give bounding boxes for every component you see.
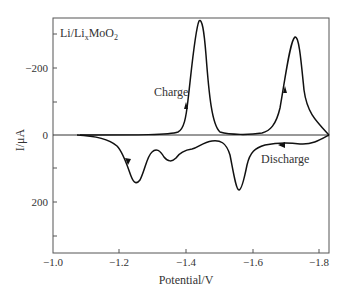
charge-label: Charge [154,85,188,99]
y-tick-label: 0 [43,129,49,141]
x-axis-title: Potential/V [159,273,214,287]
x-tick-label: −1.4 [176,256,196,268]
cv-chart: −200 0 200 −1.0 −1.2 −1.4 −1.6 −1.8 Pote… [0,0,348,292]
x-tick-label: −1.2 [109,256,129,268]
inset-label: Li/LixMoO2 [60,26,118,42]
discharge-label: Discharge [261,152,309,166]
x-tick-label: −1.8 [309,256,329,268]
x-tick-label: −1.0 [43,256,63,268]
x-axis-ticks [119,249,319,253]
y-axis-title: I/μA [13,128,27,151]
x-tick-label: −1.6 [243,256,263,268]
y-tick-label: 200 [32,196,49,208]
y-tick-label: −200 [25,62,48,74]
